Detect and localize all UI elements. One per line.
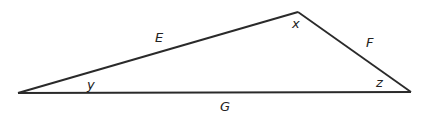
side-e [18, 12, 298, 93]
side-g [18, 92, 411, 93]
side-f [298, 12, 411, 92]
angle-label-z: z [375, 75, 384, 90]
side-label-g: G [220, 99, 230, 114]
side-label-f: F [366, 35, 374, 50]
triangle-diagram: E F G x y z [0, 0, 425, 117]
angle-label-y: y [86, 77, 95, 92]
triangle-figure: E F G x y z [0, 0, 425, 117]
side-label-e: E [155, 30, 164, 45]
angle-label-x: x [291, 16, 300, 31]
